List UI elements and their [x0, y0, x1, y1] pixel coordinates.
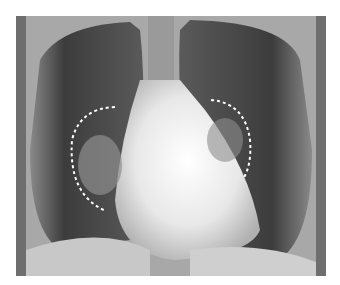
chest-xray-image [0, 0, 340, 285]
right-hilar-opacity [207, 118, 243, 162]
left-hilar-opacity [78, 135, 122, 195]
